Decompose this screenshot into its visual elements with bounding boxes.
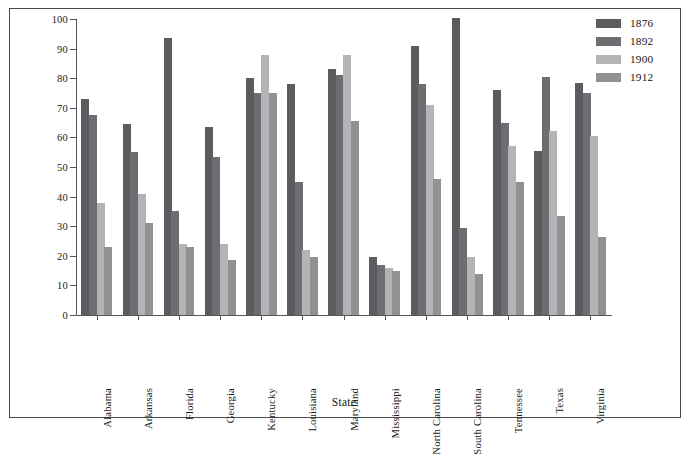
bar[interactable] (186, 247, 194, 315)
bar[interactable] (104, 247, 112, 315)
bar-group (164, 19, 194, 315)
x-axis-title: State (76, 396, 612, 408)
y-tick-mark (70, 256, 76, 257)
x-tick-mark (138, 315, 139, 320)
legend-item[interactable]: 1912 (596, 68, 674, 86)
bar-group (246, 19, 276, 315)
bar[interactable] (392, 271, 400, 315)
bar[interactable] (516, 182, 524, 315)
y-tick-label: 0 (63, 310, 68, 321)
legend-item[interactable]: 1892 (596, 32, 674, 50)
legend-label: 1900 (630, 53, 653, 65)
bar[interactable] (433, 179, 441, 315)
y-tick-mark (70, 226, 76, 227)
y-tick-label: 10 (57, 280, 68, 291)
x-tick-mark (508, 315, 509, 320)
bar[interactable] (557, 216, 565, 315)
x-category-label: Kentucky (266, 388, 277, 431)
bar[interactable] (475, 274, 483, 315)
x-tick-mark (385, 315, 386, 320)
legend-label: 1892 (630, 35, 653, 47)
legend-swatch (596, 55, 621, 64)
bar[interactable] (228, 260, 236, 315)
y-tick-label: 80 (57, 73, 68, 84)
bar-group (123, 19, 153, 315)
bar-group (81, 19, 111, 315)
bar[interactable] (598, 237, 606, 315)
legend-item[interactable]: 1876 (596, 14, 674, 32)
x-category-label: Maryland (349, 388, 360, 431)
y-tick-label: 90 (57, 43, 68, 54)
x-category-label: Arkansas (143, 388, 154, 429)
bar-group (493, 19, 523, 315)
y-tick-label: 50 (57, 162, 68, 173)
legend-label: 1912 (630, 71, 653, 83)
legend: 1876189219001912 (596, 14, 674, 86)
x-tick-mark (179, 315, 180, 320)
y-tick-label: 60 (57, 132, 68, 143)
x-tick-mark (220, 315, 221, 320)
bar-group (411, 19, 441, 315)
bar-group (287, 19, 317, 315)
x-tick-mark (549, 315, 550, 320)
x-category-label: Tennessee (513, 388, 524, 433)
bar-group (534, 19, 564, 315)
y-tick-label: 20 (57, 250, 68, 261)
y-tick-mark (70, 137, 76, 138)
x-tick-mark (426, 315, 427, 320)
y-tick-mark (70, 197, 76, 198)
y-tick-label: 70 (57, 102, 68, 113)
bar-group (369, 19, 399, 315)
legend-item[interactable]: 1900 (596, 50, 674, 68)
bar-group (452, 19, 482, 315)
legend-swatch (596, 73, 621, 82)
x-tick-mark (344, 315, 345, 320)
bar-plot-area (77, 19, 612, 315)
y-tick-label: 40 (57, 191, 68, 202)
x-tick-mark (97, 315, 98, 320)
x-category-label: Louisiana (307, 388, 318, 432)
bar[interactable] (269, 93, 277, 315)
bar[interactable] (351, 121, 359, 315)
y-tick-mark (70, 19, 76, 20)
x-tick-mark (590, 315, 591, 320)
y-tick-label: 100 (52, 14, 68, 25)
y-tick-mark (70, 108, 76, 109)
legend-swatch (596, 37, 621, 46)
y-tick-mark (70, 49, 76, 50)
bar-group (205, 19, 235, 315)
y-tick-mark (70, 78, 76, 79)
x-tick-mark (467, 315, 468, 320)
x-tick-mark (261, 315, 262, 320)
y-axis-title: Percentage of Eligible Voters (24, 0, 38, 19)
legend-label: 1876 (630, 17, 653, 29)
y-tick-label: 30 (57, 221, 68, 232)
bar[interactable] (145, 223, 153, 315)
bar-group (328, 19, 358, 315)
x-tick-mark (302, 315, 303, 320)
y-tick-mark (70, 285, 76, 286)
bar[interactable] (310, 257, 318, 315)
legend-swatch (596, 19, 621, 28)
y-tick-mark (70, 167, 76, 168)
